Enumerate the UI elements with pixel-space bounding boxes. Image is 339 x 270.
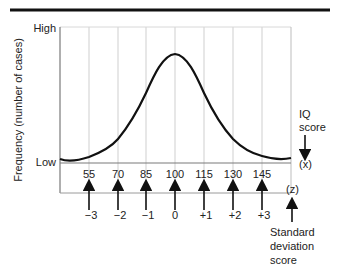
normal-distribution-diagram: High Low Frequency (number of cases) 55 … bbox=[0, 0, 339, 270]
svg-text:55: 55 bbox=[83, 168, 95, 180]
svg-text:115: 115 bbox=[195, 168, 213, 180]
x-symbol: (x) bbox=[299, 158, 312, 170]
sd-label-line2: deviation bbox=[270, 240, 314, 252]
z-tick-labels: −3 −2 −1 0 +1 +2 +3 bbox=[85, 209, 271, 221]
svg-text:−3: −3 bbox=[85, 209, 98, 221]
svg-text:0: 0 bbox=[172, 209, 178, 221]
svg-text:−2: −2 bbox=[114, 209, 127, 221]
svg-text:145: 145 bbox=[253, 168, 271, 180]
z-symbol: (z) bbox=[286, 183, 299, 195]
svg-text:130: 130 bbox=[224, 168, 242, 180]
iq-score-label-line1: IQ bbox=[299, 108, 311, 120]
svg-text:+3: +3 bbox=[258, 209, 271, 221]
tick-arrows bbox=[89, 185, 262, 210]
y-axis-title: Frequency (number of cases) bbox=[12, 38, 24, 182]
y-label-high: High bbox=[33, 22, 56, 34]
svg-text:−1: −1 bbox=[142, 209, 155, 221]
iq-score-label-line2: score bbox=[299, 121, 326, 133]
iq-tick-labels: 55 70 85 100 115 130 145 bbox=[83, 168, 271, 180]
y-label-low: Low bbox=[36, 156, 56, 168]
sd-label-line3: score bbox=[270, 254, 297, 266]
svg-text:+1: +1 bbox=[200, 209, 213, 221]
svg-text:70: 70 bbox=[112, 168, 124, 180]
svg-text:100: 100 bbox=[166, 168, 184, 180]
sd-label-line1: Standard bbox=[270, 226, 315, 238]
svg-text:+2: +2 bbox=[229, 209, 242, 221]
svg-text:85: 85 bbox=[140, 168, 152, 180]
